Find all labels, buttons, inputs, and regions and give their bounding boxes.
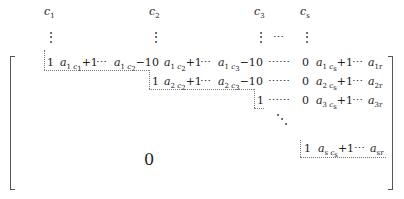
pivot-one: 1 bbox=[47, 56, 54, 69]
header-sub: 1 bbox=[50, 12, 54, 20]
staircase-vertical-2 bbox=[149, 70, 150, 89]
entry-a-1r: a1r bbox=[368, 56, 382, 71]
column-header-cs: cs bbox=[300, 5, 310, 20]
hdots: ⋯ bbox=[200, 75, 211, 88]
entry-a-2-cs+1: a2 cs+1 bbox=[316, 75, 353, 93]
entry-a-1-cs+1: a1 cs+1 bbox=[316, 56, 353, 74]
pivot-one: 1 bbox=[152, 75, 159, 88]
entry-a-sr: asr bbox=[370, 142, 384, 157]
column-header-c1: c1 bbox=[44, 5, 55, 20]
entry-a-1-c2+1: a1 c2+1 bbox=[164, 56, 202, 74]
pivot-one: 1 bbox=[304, 142, 311, 155]
staircase-horizontal-3 bbox=[254, 108, 264, 109]
vdots-c3: ⋮ bbox=[255, 30, 267, 44]
column-header-c3: c3 bbox=[254, 5, 265, 20]
hdots: ⋯ bbox=[96, 56, 107, 69]
header-sub: s bbox=[306, 12, 310, 20]
hdots: ⋯ bbox=[354, 142, 365, 155]
header-sub: 3 bbox=[260, 12, 264, 20]
zero: 0 bbox=[256, 75, 263, 88]
zero: 0 bbox=[152, 56, 159, 69]
vdots-c1: ⋮ bbox=[45, 30, 57, 44]
staircase-horizontal-s bbox=[300, 157, 386, 158]
column-header-c2: c2 bbox=[149, 5, 160, 20]
matrix-row-s: 1 as cs+1 ⋯ asr bbox=[0, 142, 404, 158]
zero: 0 bbox=[302, 94, 309, 107]
pivot-one: 1 bbox=[257, 94, 264, 107]
long-hdots: ⋯⋯ bbox=[268, 75, 290, 88]
entry-a-3r: a3r bbox=[368, 94, 382, 109]
hdots: ⋯ bbox=[352, 75, 363, 88]
hdots: ⋯ bbox=[200, 56, 211, 69]
lower-zero-block: 0 bbox=[144, 150, 154, 169]
long-hdots: ⋯⋯ bbox=[268, 94, 290, 107]
staircase-vertical-1 bbox=[44, 50, 45, 70]
zero: 0 bbox=[256, 56, 263, 69]
staircase-vertical-3 bbox=[254, 89, 255, 108]
header-sub: 2 bbox=[155, 12, 159, 20]
zero: 0 bbox=[302, 56, 309, 69]
long-hdots: ⋯⋯ bbox=[268, 56, 290, 69]
hdots: ⋯ bbox=[352, 94, 363, 107]
vdots-c2: ⋮ bbox=[150, 30, 162, 44]
entry-a-1-c3-1: a1 c3−1 bbox=[218, 56, 256, 74]
hdots-between-c3-cs: ⋯ bbox=[273, 31, 285, 44]
diagonal-dots: ⋱ bbox=[276, 112, 288, 126]
zero: 0 bbox=[302, 75, 309, 88]
hdots: ⋯ bbox=[352, 56, 363, 69]
entry-a-3-cs+1: a3 cs+1 bbox=[316, 94, 353, 112]
staircase-vertical-s bbox=[300, 140, 301, 157]
vdots-cs: ⋮ bbox=[301, 30, 313, 44]
staircase-horizontal-2 bbox=[149, 89, 254, 90]
staircase-horizontal-1 bbox=[44, 70, 149, 71]
matrix-row-3: 1 ⋯⋯ 0 a3 cs+1 ⋯ a3r bbox=[0, 94, 404, 110]
entry-a-2r: a2r bbox=[368, 75, 382, 90]
